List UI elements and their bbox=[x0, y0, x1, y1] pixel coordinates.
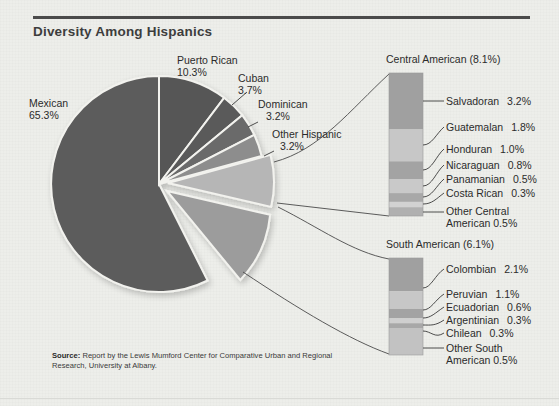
bar-label-panamanian: Panamanian 0.5% bbox=[446, 173, 537, 185]
bar-segment-panamanian[interactable] bbox=[389, 193, 423, 202]
bar-segment-peruvian[interactable] bbox=[389, 291, 423, 309]
callout-guatemalan bbox=[423, 127, 444, 145]
bar-label-honduran-value: 1.0% bbox=[500, 143, 524, 155]
callout-argentinian bbox=[423, 320, 444, 325]
callout-panamanian bbox=[423, 179, 444, 197]
callout-ecuadorian bbox=[423, 307, 444, 318]
source-text: Report by the Lewis Mumford Center for C… bbox=[52, 351, 332, 370]
south-american-callouts bbox=[423, 269, 444, 348]
south-american-bar bbox=[389, 258, 423, 355]
pie-label-cuban: Cuban 3.7% bbox=[238, 72, 269, 96]
pie-chart bbox=[51, 76, 274, 292]
bar-label-argentinian-value: 0.3% bbox=[507, 314, 531, 326]
bar-label-ecuadorian: Ecuadorian 0.6% bbox=[446, 301, 531, 313]
bar-label-salvadoran: Salvadoran 3.2% bbox=[446, 95, 531, 107]
bar-label-chilean: Chilean 0.3% bbox=[446, 327, 513, 339]
pie-label-other-hispanic-value: 3.2% bbox=[280, 140, 304, 152]
bar-label-nicaraguan-value: 0.8% bbox=[508, 159, 532, 171]
callout-chilean bbox=[423, 331, 444, 335]
footer-rule bbox=[0, 398, 559, 399]
bar-label-nicaraguan: Nicaraguan 0.8% bbox=[446, 159, 532, 171]
bar-label-colombian-name: Colombian bbox=[446, 263, 496, 275]
panel-title-central-american: Central American (8.1%) bbox=[386, 53, 500, 65]
pie-label-mexican-value: 65.3% bbox=[29, 109, 59, 121]
bar-label-ecuadorian-name: Ecuadorian bbox=[446, 301, 499, 313]
callout-honduran bbox=[423, 149, 444, 170]
bar-segment-nicaraguan[interactable] bbox=[389, 179, 423, 193]
bar-segment-honduran[interactable] bbox=[389, 161, 423, 179]
pie-label-cuban-name: Cuban bbox=[238, 72, 269, 84]
bar-segment-argentinian[interactable] bbox=[389, 318, 423, 323]
callout-peruvian bbox=[423, 294, 444, 310]
bar-label-salvadoran-value: 3.2% bbox=[507, 95, 531, 107]
bar-label-nicaraguan-name: Nicaraguan bbox=[446, 159, 500, 171]
bar-label-other-south-american-value: 0.5% bbox=[493, 354, 517, 366]
bar-segment-colombian[interactable] bbox=[389, 258, 423, 291]
bar-label-salvadoran-name: Salvadoran bbox=[446, 95, 499, 107]
bar-label-costa-rican-name: Costa Rican bbox=[446, 187, 503, 199]
bar-label-argentinian-name: Argentinian bbox=[446, 314, 499, 326]
bar-segment-ecuadorian[interactable] bbox=[389, 309, 423, 319]
callout-colombian bbox=[423, 269, 444, 288]
bar-label-ecuadorian-value: 0.6% bbox=[507, 301, 531, 313]
connector-south-upper bbox=[278, 207, 389, 259]
bar-label-costa-rican: Costa Rican 0.3% bbox=[446, 187, 535, 199]
bar-segment-chilean[interactable] bbox=[389, 323, 423, 328]
bar-label-guatemalan: Guatemalan 1.8% bbox=[446, 121, 535, 133]
bar-label-chilean-value: 0.3% bbox=[490, 327, 514, 339]
source-label: Source: bbox=[52, 351, 80, 360]
bar-label-peruvian: Peruvian 1.1% bbox=[446, 288, 519, 300]
bar-label-panamanian-value: 0.5% bbox=[513, 173, 537, 185]
bar-label-honduran-name: Honduran bbox=[446, 143, 492, 155]
bar-label-other-south-american: Other South American 0.5% bbox=[446, 342, 530, 366]
bar-label-guatemalan-value: 1.8% bbox=[511, 121, 535, 133]
bar-label-guatemalan-name: Guatemalan bbox=[446, 121, 503, 133]
bar-segment-costa-rican[interactable] bbox=[389, 202, 423, 207]
bar-label-colombian: Colombian 2.1% bbox=[446, 263, 528, 275]
bar-segment-guatemalan[interactable] bbox=[389, 130, 423, 162]
connector-south-lower bbox=[243, 272, 389, 354]
bar-label-peruvian-value: 1.1% bbox=[495, 288, 519, 300]
bar-label-chilean-name: Chilean bbox=[446, 327, 482, 339]
bar-label-peruvian-name: Peruvian bbox=[446, 288, 487, 300]
source-note: Source: Report by the Lewis Mumford Cent… bbox=[52, 351, 352, 372]
pie-label-puerto-rican-value: 10.3% bbox=[177, 66, 207, 78]
bar-label-honduran: Honduran 1.0% bbox=[446, 143, 524, 155]
bar-segment-other-south[interactable] bbox=[389, 328, 423, 355]
pie-label-other-hispanic: Other Hispanic 3.2% bbox=[272, 128, 341, 152]
pie-label-dominican-value: 3.2% bbox=[266, 110, 290, 122]
bar-label-other-central-american-value: 0.5% bbox=[493, 217, 517, 229]
pie-label-dominican: Dominican 3.2% bbox=[258, 98, 308, 122]
pie-label-cuban-value: 3.7% bbox=[238, 84, 262, 96]
bar-label-colombian-value: 2.1% bbox=[504, 263, 528, 275]
pie-label-mexican: Mexican 65.3% bbox=[29, 97, 68, 121]
bar-segment-other-central[interactable] bbox=[389, 207, 423, 216]
bar-segment-salvadoran[interactable] bbox=[389, 73, 423, 130]
pie-label-puerto-rican-name: Puerto Rican bbox=[177, 54, 238, 66]
panel-title-south-american: South American (6.1%) bbox=[386, 238, 494, 250]
figure-page: Diversity Among Hispanics bbox=[0, 0, 559, 406]
pie-label-other-hispanic-name: Other Hispanic bbox=[272, 128, 341, 140]
pie-label-mexican-name: Mexican bbox=[29, 97, 68, 109]
bar-label-argentinian: Argentinian 0.3% bbox=[446, 314, 531, 326]
pie-label-puerto-rican: Puerto Rican 10.3% bbox=[177, 54, 238, 78]
bar-label-costa-rican-value: 0.3% bbox=[511, 187, 535, 199]
bar-label-other-central-american: Other Central American 0.5% bbox=[446, 205, 530, 229]
callout-costa-rican bbox=[423, 193, 444, 204]
pie-label-dominican-name: Dominican bbox=[258, 98, 308, 110]
central-american-bar bbox=[389, 73, 423, 216]
bar-label-panamanian-name: Panamanian bbox=[446, 173, 505, 185]
connector-central-lower bbox=[277, 203, 389, 216]
central-american-callouts bbox=[423, 101, 444, 212]
